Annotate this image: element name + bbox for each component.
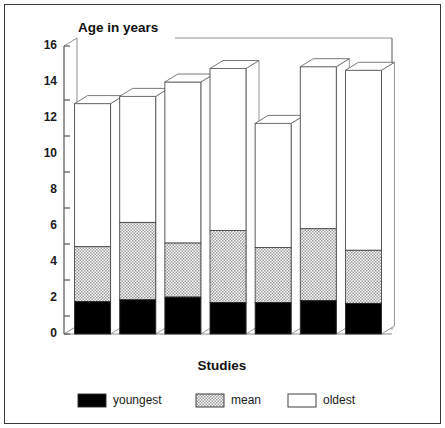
- bar-column: [165, 74, 214, 334]
- y-tick-0: 0: [50, 326, 57, 340]
- legend-swatch-mean: [196, 394, 224, 407]
- bar-segment-oldest: [345, 70, 381, 250]
- bar-segment-oldest: [120, 96, 156, 222]
- bar-column: [75, 96, 124, 334]
- bar-segment-mean: [165, 243, 201, 297]
- legend-label-oldest: oldest: [323, 393, 356, 407]
- bar-segment-youngest: [300, 301, 336, 334]
- chart-title: Age in years: [78, 20, 158, 35]
- bar-segment-oldest: [300, 67, 336, 229]
- y-tick-12: 12: [44, 110, 58, 124]
- y-tick-4: 4: [50, 254, 57, 268]
- bar-segment-oldest: [255, 123, 291, 247]
- bar-side-face: [381, 62, 394, 334]
- bars-group: [75, 59, 395, 334]
- bar-column: [345, 62, 394, 334]
- bar-segment-mean: [75, 247, 111, 302]
- chart-canvas: Age in years 0 2 4: [0, 0, 445, 428]
- bar-segment-mean: [210, 231, 246, 303]
- bar-segment-oldest: [75, 104, 111, 247]
- bar-column: [120, 88, 169, 334]
- bar-segment-youngest: [345, 303, 381, 334]
- y-tick-8: 8: [50, 182, 57, 196]
- legend-swatch-oldest: [288, 394, 316, 407]
- y-axis: [64, 46, 70, 334]
- bar-segment-mean: [120, 222, 156, 299]
- x-axis-title: Studies: [198, 358, 247, 373]
- bar-segment-youngest: [75, 302, 111, 334]
- bar-segment-youngest: [120, 300, 156, 334]
- legend: youngest mean oldest: [78, 393, 356, 407]
- bar-column: [210, 61, 259, 335]
- chart-figure: Age in years 0 2 4: [0, 0, 445, 428]
- legend-label-mean: mean: [231, 393, 261, 407]
- bar-segment-youngest: [255, 303, 291, 335]
- bar-column: [300, 59, 349, 334]
- bar-segment-mean: [300, 229, 336, 301]
- y-tick-6: 6: [50, 218, 57, 232]
- y-tick-10: 10: [44, 146, 58, 160]
- legend-label-youngest: youngest: [113, 393, 162, 407]
- bar-segment-youngest: [210, 303, 246, 335]
- y-tick-14: 14: [44, 74, 58, 88]
- legend-swatch-youngest: [78, 394, 106, 407]
- bar-segment-oldest: [165, 82, 201, 243]
- bar-segment-youngest: [165, 297, 201, 334]
- bar-segment-oldest: [210, 69, 246, 231]
- y-tick-2: 2: [50, 290, 57, 304]
- bar-segment-mean: [345, 250, 381, 303]
- y-tick-16: 16: [44, 38, 58, 52]
- y-axis-tick-labels: 0 2 4 6 8 10 12 14 16: [44, 38, 58, 340]
- bar-segment-mean: [255, 248, 291, 303]
- bar-column: [255, 115, 304, 334]
